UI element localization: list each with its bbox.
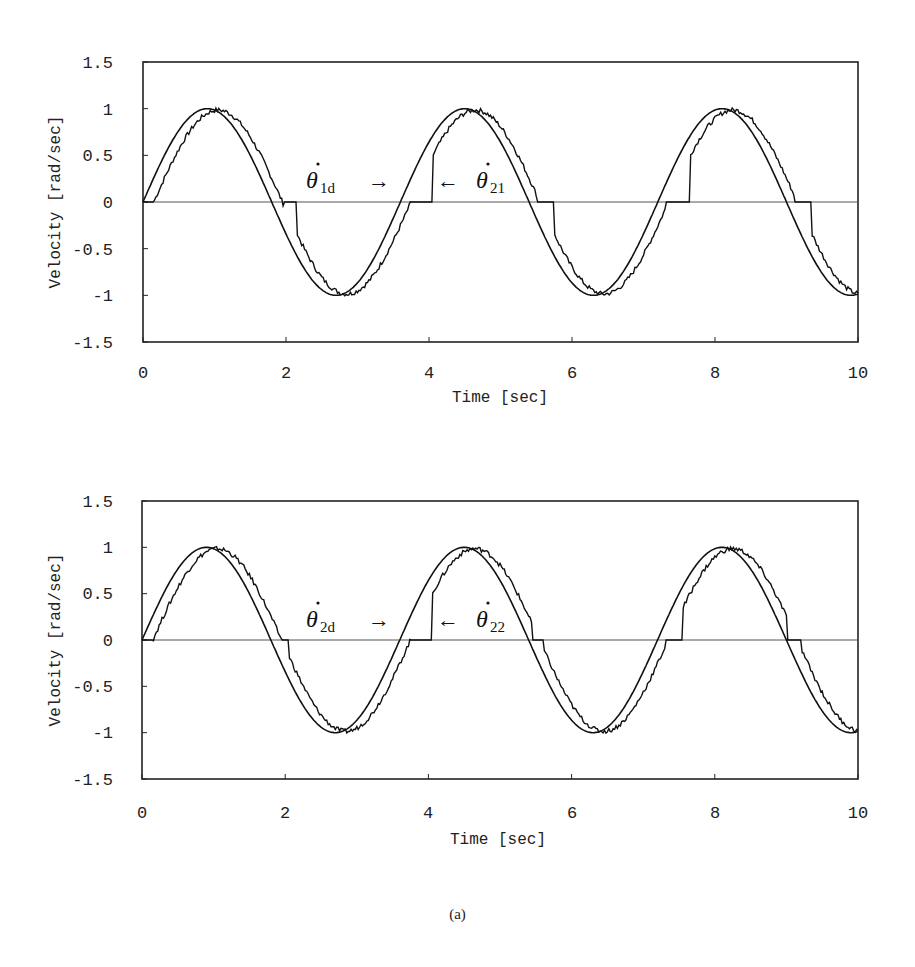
arrow-left-icon: ← — [437, 607, 459, 632]
x-tick-label: 4 — [424, 364, 434, 383]
derivative-dot — [316, 162, 319, 165]
y-axis: 1.5 1 0.5 0 -0.5 -1 -1.5 — [72, 493, 113, 790]
x-tick-label: 10 — [848, 364, 868, 383]
annotation-actual: ← θ 21 — [437, 162, 505, 196]
x-tick-label: 2 — [281, 364, 291, 383]
derivative-dot — [486, 601, 489, 604]
x-tick-label: 4 — [423, 804, 433, 823]
y-tick-label: -1.5 — [72, 334, 113, 353]
x-tick-label: 0 — [137, 804, 147, 823]
derivative-dot — [316, 601, 319, 604]
subscript: 2d — [320, 619, 336, 635]
x-tick-label: 8 — [710, 364, 720, 383]
x-tick-label: 0 — [138, 364, 148, 383]
y-tick-label: 0 — [103, 632, 113, 651]
y-tick-label: 1 — [103, 101, 113, 120]
x-axis: 0 2 4 6 8 10 — [138, 364, 868, 383]
arrow-right-icon: → — [368, 607, 390, 632]
y-tick-label: 1.5 — [82, 54, 113, 73]
subscript: 21 — [490, 180, 505, 196]
bottom-chart: 1.5 1 0.5 0 -0.5 -1 -1.5 0 2 4 6 8 10 Ti… — [47, 493, 868, 849]
x-tick-label: 6 — [567, 804, 577, 823]
theta-symbol: θ — [306, 167, 318, 193]
x-tick-label: 10 — [848, 804, 868, 823]
annotation-actual: ← θ 22 — [437, 601, 505, 635]
x-axis-title: Time [sec] — [450, 831, 546, 849]
y-tick-label: -1 — [93, 287, 113, 306]
x-tick-label: 6 — [567, 364, 577, 383]
arrow-left-icon: ← — [437, 168, 459, 193]
theta-symbol: θ — [476, 606, 488, 632]
y-tick-label: 1 — [103, 539, 113, 558]
figure-caption: (a) — [0, 906, 915, 923]
x-axis-title: Time [sec] — [452, 389, 548, 407]
arrow-right-icon: → — [368, 168, 390, 193]
figure-canvas: 1.5 1 0.5 0 -0.5 -1 -1.5 0 2 4 6 8 10 Ti… — [0, 0, 915, 967]
figure: 1.5 1 0.5 0 -0.5 -1 -1.5 0 2 4 6 8 10 Ti… — [0, 0, 915, 967]
x-axis: 0 2 4 6 8 10 — [137, 804, 868, 823]
y-tick-label: -0.5 — [72, 241, 113, 260]
annotation-desired: θ 2d → — [306, 601, 390, 635]
subscript: 1d — [320, 180, 336, 196]
y-axis-title: Velocity [rad/sec] — [47, 116, 65, 289]
theta-symbol: θ — [476, 167, 488, 193]
y-tick-label: 0.5 — [82, 585, 113, 604]
x-tick-label: 8 — [710, 804, 720, 823]
y-tick-label: 1.5 — [82, 493, 113, 512]
y-tick-label: -1 — [93, 724, 113, 743]
derivative-dot — [486, 162, 489, 165]
subscript: 22 — [490, 619, 505, 635]
y-tick-label: -1.5 — [72, 771, 113, 790]
y-axis: 1.5 1 0.5 0 -0.5 -1 -1.5 — [72, 54, 113, 353]
theta-symbol: θ — [306, 606, 318, 632]
y-tick-label: -0.5 — [72, 678, 113, 697]
annotation-desired: θ 1d → — [306, 162, 390, 196]
x-tick-label: 2 — [280, 804, 290, 823]
top-chart: 1.5 1 0.5 0 -0.5 -1 -1.5 0 2 4 6 8 10 Ti… — [47, 54, 868, 407]
y-tick-label: 0 — [103, 194, 113, 213]
y-axis-title: Velocity [rad/sec] — [47, 554, 65, 727]
y-tick-label: 0.5 — [82, 147, 113, 166]
